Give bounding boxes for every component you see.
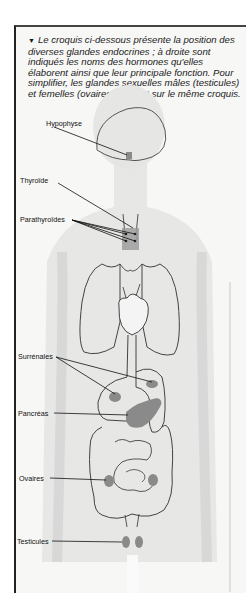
testicule-gland: [122, 536, 130, 548]
label-testicules: Testicules: [17, 537, 49, 546]
testicule-gland: [135, 536, 143, 548]
surrenale-gland: [109, 392, 121, 402]
label-parathyroides: Parathyroïdes: [20, 215, 65, 224]
label-thyroide: Thyroïde: [20, 176, 48, 185]
label-pancreas: Pancréas: [18, 409, 48, 418]
label-hypophyse: Hypophyse: [46, 119, 82, 128]
label-surrenales: Surrénales: [18, 352, 53, 361]
ovaire-gland: [104, 475, 114, 487]
diagram-frame: ▼Le croquis ci-dessous présente la posit…: [14, 25, 246, 593]
endocrine-body-diagram: [16, 27, 246, 593]
label-ovaires: Ovaires: [19, 474, 44, 483]
ovaire-gland: [148, 474, 158, 486]
hypophyse-gland: [126, 152, 132, 159]
